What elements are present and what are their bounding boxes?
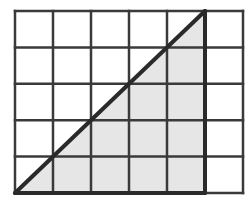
- grid-diagram: [0, 0, 249, 200]
